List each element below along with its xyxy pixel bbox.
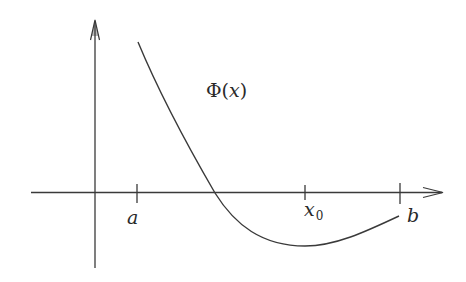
phi-curve	[138, 42, 399, 246]
function-symbol: Φ	[206, 79, 222, 101]
graph-canvas	[0, 0, 466, 282]
function-variable: x	[229, 79, 240, 101]
function-close-paren: )	[240, 79, 247, 101]
tick-label-b: b	[407, 206, 419, 225]
function-graph-figure: Φ(x) a x0 b	[0, 0, 466, 282]
tick-label-x0: x0	[304, 200, 323, 222]
tick-label-a: a	[127, 208, 138, 227]
tick-label-a-text: a	[127, 206, 138, 228]
tick-label-x0-text: x	[304, 198, 315, 220]
tick-label-b-text: b	[407, 204, 419, 226]
function-label: Φ(x)	[206, 81, 247, 100]
function-open-paren: (	[222, 79, 229, 101]
tick-label-x0-subscript: 0	[316, 209, 324, 223]
